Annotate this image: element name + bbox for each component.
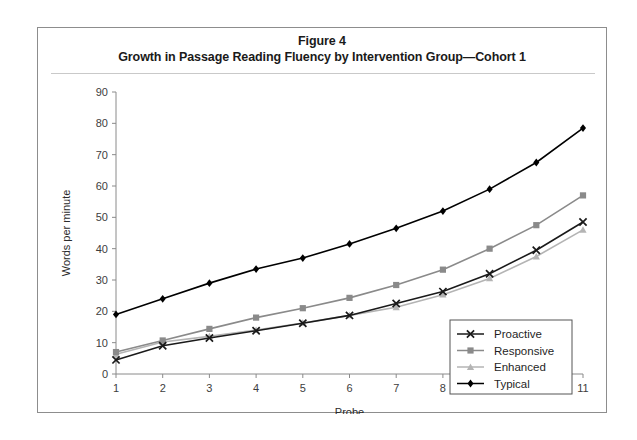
data-point-marker [579,226,586,232]
x-tick-label: 4 [253,382,259,394]
data-point-marker [253,265,259,273]
series-typical [113,124,586,318]
data-point-marker [580,192,586,198]
data-point-marker [440,207,446,215]
x-tick-label: 5 [300,382,306,394]
y-tick-label: 70 [96,149,108,161]
data-point-marker [533,247,540,254]
chart-legend: ProactiveResponsiveEnhancedTypical [450,320,572,394]
data-point-marker [160,295,166,303]
y-tick-label: 90 [96,86,108,98]
data-point-marker [487,185,493,193]
y-tick-label: 20 [96,305,108,317]
x-tick-label: 11 [577,382,588,394]
x-tick-label: 2 [160,382,166,394]
data-point-marker [253,315,259,321]
data-point-marker [533,222,539,228]
data-point-marker [533,159,539,167]
series-line [116,128,583,314]
data-point-marker [346,240,352,248]
legend-label: Proactive [494,328,542,340]
data-point-marker [113,349,119,355]
y-axis: 0102030405060708090 [96,86,116,380]
y-tick-label: 50 [96,211,108,223]
y-axis-title: Words per minute [60,190,72,277]
legend-label: Enhanced [494,361,546,373]
data-point-marker [467,347,473,353]
data-point-marker [206,279,212,287]
x-axis-title: Probe [335,406,364,414]
y-tick-label: 40 [96,243,108,255]
y-tick-label: 30 [96,274,108,286]
data-point-marker [580,124,586,132]
data-point-marker [393,282,399,288]
y-tick-label: 0 [102,368,108,380]
figure-frame: Figure 4 Growth in Passage Reading Fluen… [37,27,607,413]
data-point-marker [487,246,493,252]
data-point-marker [393,224,399,232]
legend-label: Typical [494,378,530,390]
data-point-marker [300,254,306,262]
x-tick-label: 7 [393,382,399,394]
data-point-marker [440,267,446,273]
data-point-marker [346,295,352,301]
data-point-marker [300,305,306,311]
y-tick-label: 60 [96,180,108,192]
x-tick-label: 6 [346,382,352,394]
y-tick-label: 10 [96,337,108,349]
data-point-marker [579,218,586,225]
x-tick-label: 3 [206,382,212,394]
x-tick-label: 8 [440,382,446,394]
line-chart: 0102030405060708090 1234567891011 Proact… [38,28,608,414]
y-tick-label: 80 [96,117,108,129]
chart-plot-area: 0102030405060708090 1234567891011 Proact… [38,28,608,414]
x-tick-label: 1 [113,382,119,394]
legend-label: Responsive [494,345,554,357]
data-point-marker [206,326,212,332]
